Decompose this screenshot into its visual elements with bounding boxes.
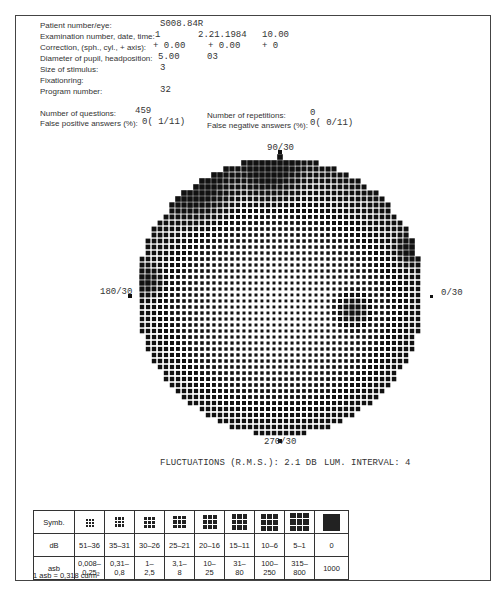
legend-symbol-cell <box>285 511 315 534</box>
legend-db-cell: 20–16 <box>195 534 225 557</box>
legend-db-cell: 51–36 <box>75 534 105 557</box>
legend-asb-cell: 31– 80 <box>225 557 255 580</box>
legend-db-cell: 0 <box>315 534 349 557</box>
axis-label-90: 90/30 <box>267 143 294 153</box>
greyscale-symbol-icon <box>323 514 340 531</box>
legend-header-db: dB <box>34 534 75 557</box>
greyscale-legend-table: Symb. dB 51–3635–3130–2625–2120–1615–111… <box>33 510 349 580</box>
legend-symbol-cell <box>75 511 105 534</box>
unit-conversion-note: 1 asb = 0,318 cd/m² <box>33 571 100 580</box>
legend-symbol-cell <box>135 511 165 534</box>
legend-header-symb: Symb. <box>34 511 75 534</box>
axis-label-270: 270/30 <box>264 437 296 447</box>
legend-asb-cell: 0,31– 0,8 <box>105 557 135 580</box>
greyscale-symbol-icon <box>115 517 125 527</box>
legend-asb-cell: 1000 <box>315 557 349 580</box>
greyscale-symbol-icon <box>173 516 186 529</box>
legend-symbol-cell <box>225 511 255 534</box>
greyscale-symbol-icon <box>144 517 155 528</box>
legend-asb-cell: 1– 2,5 <box>135 557 165 580</box>
legend-db-cell: 10–6 <box>255 534 285 557</box>
fluctuations-text: FLUCTUATIONS (R.M.S.): 2.1 DB <box>160 458 317 468</box>
greyscale-symbol-icon <box>261 514 278 531</box>
legend-symbol-cell <box>105 511 135 534</box>
legend-db-cell: 15–11 <box>225 534 255 557</box>
legend-db-cell: 35–31 <box>105 534 135 557</box>
legend-db-row: dB 51–3635–3130–2625–2120–1615–1110–65–1… <box>34 534 349 557</box>
legend-symbol-cell <box>255 511 285 534</box>
greyscale-symbol-icon <box>232 514 248 530</box>
legend-db-cell: 25–21 <box>165 534 195 557</box>
legend-symbol-row: Symb. <box>34 511 349 534</box>
lum-interval-text: LUM. INTERVAL: 4 <box>324 458 410 468</box>
legend-db-cell: 30–26 <box>135 534 165 557</box>
greyscale-symbol-icon <box>290 513 309 532</box>
legend-symbol-cell <box>195 511 225 534</box>
visual-field-greyscale-plot <box>0 0 500 597</box>
greyscale-symbol-icon <box>86 519 94 527</box>
legend-asb-cell: 100– 250 <box>255 557 285 580</box>
axis-label-180: 180/30 <box>100 287 132 297</box>
legend-asb-cell: 315– 800 <box>285 557 315 580</box>
axis-label-0: 0/30 <box>441 288 463 298</box>
legend-asb-cell: 3,1– 8 <box>165 557 195 580</box>
legend-symbol-cell <box>165 511 195 534</box>
greyscale-symbol-icon <box>203 515 217 529</box>
legend-symbol-cell <box>315 511 349 534</box>
legend-asb-cell: 10– 25 <box>195 557 225 580</box>
legend-db-cell: 5–1 <box>285 534 315 557</box>
